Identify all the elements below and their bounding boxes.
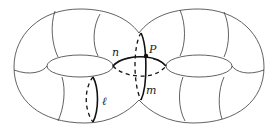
right-meridian-2 [224, 12, 229, 57]
point-p-marker [144, 54, 148, 58]
left-meridian-1 [52, 11, 58, 57]
left-meridian-2 [94, 14, 100, 56]
loop-l-back [86, 77, 93, 122]
label-p: P [148, 43, 157, 56]
left-hole-inner-curve [14, 66, 47, 73]
right-hole-inner-curve [232, 66, 264, 73]
outer-silhouette [14, 9, 264, 123]
loop-n-back [113, 66, 166, 76]
double-torus-figure: P n m ℓ [0, 0, 278, 131]
double-torus-svg: P n m ℓ [0, 0, 278, 131]
loop-m-back [135, 33, 141, 100]
right-meridian-4 [219, 77, 224, 119]
left-meridian-3 [58, 77, 64, 121]
left-hole [47, 55, 113, 77]
label-m: m [146, 84, 156, 97]
right-meridian-3 [179, 77, 185, 121]
label-n: n [112, 46, 119, 59]
loop-l-front [93, 77, 98, 122]
label-l: ℓ [102, 95, 107, 108]
right-hole [166, 55, 232, 77]
loop-n-front [113, 57, 166, 66]
right-meridian-1 [180, 10, 185, 56]
